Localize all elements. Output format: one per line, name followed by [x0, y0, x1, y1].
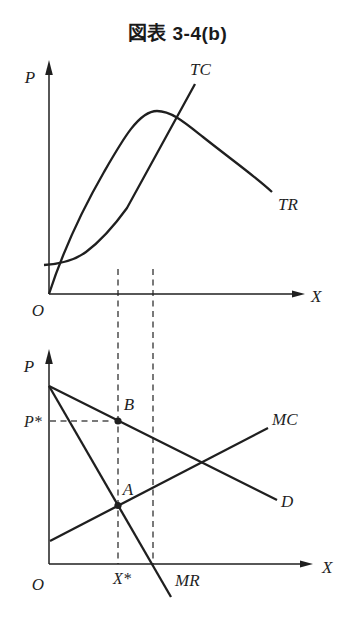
bottom-p-axis-arrow-icon [45, 349, 53, 364]
tr-curve-label: TR [278, 195, 298, 214]
bottom-chart: P X O MC D MR A B P* X* [23, 349, 333, 597]
x-star-label: X* [112, 570, 131, 587]
point-b-dot [114, 417, 121, 424]
point-a-dot [114, 502, 121, 509]
bottom-p-axis-label: P [23, 357, 34, 376]
top-chart: P X O TC TR [24, 60, 322, 320]
top-p-axis-label: P [24, 68, 35, 87]
mr-curve-label: MR [174, 571, 200, 590]
top-x-axis-label: X [310, 287, 322, 306]
figure-page: 図表 3-4(b) P X O TC TR [0, 0, 355, 622]
point-b-label: B [124, 395, 135, 414]
demand-curve-label: D [280, 492, 294, 511]
top-x-axis-arrow-icon [292, 291, 305, 298]
tc-curve-label: TC [190, 60, 211, 79]
bottom-x-axis-arrow-icon [300, 561, 313, 568]
bottom-origin-label: O [32, 575, 44, 594]
mc-curve-label: MC [271, 410, 298, 429]
p-star-label: P* [23, 413, 42, 430]
point-a-label: A [122, 480, 134, 499]
guide-dashes [118, 269, 153, 564]
figure-canvas: P X O TC TR P X O MC [0, 0, 355, 622]
tr-curve [49, 111, 272, 294]
top-origin-label: O [32, 301, 44, 320]
bottom-x-axis-label: X [321, 558, 333, 577]
tc-curve [44, 84, 195, 265]
top-p-axis-arrow-icon [45, 60, 53, 75]
